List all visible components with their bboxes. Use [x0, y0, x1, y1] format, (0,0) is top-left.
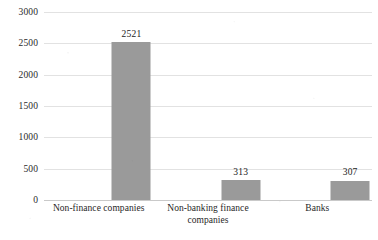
y-tick-label-1500: 1500: [2, 101, 38, 111]
bar-value-banks: 307: [343, 167, 358, 178]
x-axis: Non-finance companies Non-banking financ…: [44, 203, 372, 240]
bar-value-non-banking-finance-companies: 313: [233, 167, 248, 178]
bar-group-banks: 307: [296, 12, 378, 200]
x-tick-label-banks: Banks: [263, 203, 372, 215]
x-tick-label-non-finance-companies: Non-finance companies: [44, 203, 153, 215]
y-tick-label-2500: 2500: [2, 38, 38, 48]
x-tick-label-non-banking-finance-companies: Non-banking finance companies: [153, 203, 262, 226]
y-tick-label-1000: 1000: [2, 132, 38, 142]
bar-group-non-finance-companies: 2521: [77, 12, 186, 200]
y-axis: 3000 2500 2000 1500 1000 500 0: [0, 0, 44, 240]
y-tick-label-3000: 3000: [2, 7, 38, 17]
bar-non-finance-companies[interactable]: [112, 42, 151, 200]
bar-group-non-banking-finance-companies: 313: [186, 12, 295, 200]
y-tick-label-0: 0: [2, 195, 38, 205]
bar-banks[interactable]: [331, 181, 370, 200]
axis-baseline: [44, 200, 372, 201]
bars-layer: 2521 313 307: [44, 12, 372, 200]
bar-non-banking-finance-companies[interactable]: [221, 180, 260, 200]
y-tick-label-2000: 2000: [2, 70, 38, 80]
bar-value-non-finance-companies: 2521: [122, 29, 142, 40]
bar-chart: 3000 2500 2000 1500 1000 500 0 2521 313 …: [0, 0, 378, 240]
y-tick-label-500: 500: [2, 164, 38, 174]
